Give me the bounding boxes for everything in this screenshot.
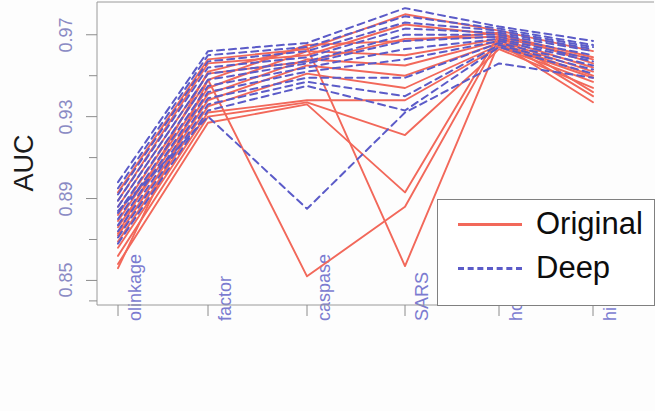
legend-label-original: Original [536, 204, 643, 244]
legend-label-deep: Deep [536, 248, 610, 288]
chart-root: AUC 0.97 0.93 0.89 0.85 olinkage factor … [0, 0, 655, 411]
legend-swatch-deep [458, 267, 522, 270]
legend-swatch-original [458, 223, 522, 226]
legend-row-deep: Deep [438, 248, 654, 288]
legend-row-original: Original [438, 204, 654, 244]
series-line [118, 33, 593, 215]
chart-legend: Original Deep [437, 199, 655, 306]
